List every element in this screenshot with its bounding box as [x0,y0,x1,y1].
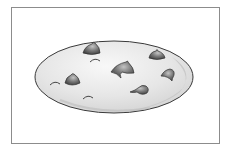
cookie-illustration [0,0,232,151]
